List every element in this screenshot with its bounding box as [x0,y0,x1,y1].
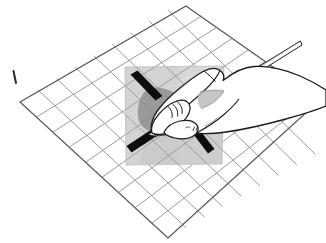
illustration-svg: Hand holding a stylus over a gridded sur… [0,0,326,243]
illustration-root: Hand holding a stylus over a gridded sur… [0,0,326,243]
